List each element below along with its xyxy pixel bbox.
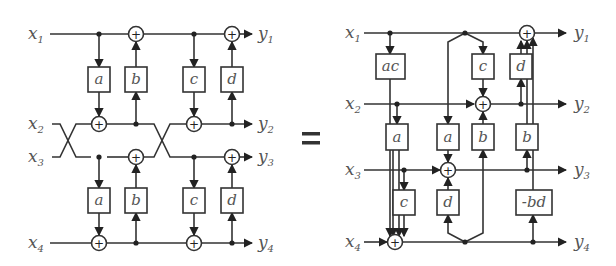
input-x2: x2	[28, 113, 44, 135]
output-y3: y3	[573, 159, 590, 181]
svg-text:c: c	[479, 57, 488, 75]
svg-text:+: +	[390, 236, 400, 250]
wire-mid-lower-b	[144, 124, 186, 157]
left-sum-nodes: + + + + + + + +	[92, 27, 240, 251]
left-lower-blocks: a b c d	[88, 188, 243, 213]
input-x4: x4	[28, 232, 44, 254]
svg-text:+: +	[227, 28, 237, 42]
svg-text:+: +	[478, 98, 488, 112]
svg-text:b: b	[522, 128, 532, 146]
svg-text:a: a	[444, 128, 453, 146]
left-upper-blocks: a b c d	[88, 67, 243, 92]
svg-text:a: a	[393, 128, 402, 146]
input-x3: x3	[345, 159, 361, 181]
svg-text:d: d	[443, 193, 453, 211]
input-x2: x2	[345, 93, 361, 115]
svg-text:+: +	[443, 164, 453, 178]
svg-text:c: c	[190, 191, 199, 209]
output-y4: y4	[257, 232, 274, 254]
svg-text:ac: ac	[382, 57, 400, 75]
svg-text:+: +	[131, 151, 141, 165]
output-y2: y2	[257, 113, 274, 135]
wire-mid-upper	[107, 124, 224, 157]
left-input-labels: x1 x2 x3 x4	[28, 23, 44, 254]
input-x1: x1	[345, 22, 361, 44]
svg-text:+: +	[94, 118, 104, 132]
svg-text:+: +	[522, 27, 532, 41]
svg-text:a: a	[95, 70, 104, 88]
lifting-structure-diagram: x1 x2 x3 x4 y1 y2 y3 y4	[0, 0, 616, 266]
svg-text:+: +	[189, 118, 199, 132]
right-input-labels: x1 x2 x3 x4	[345, 22, 361, 253]
svg-text:+: +	[189, 237, 199, 251]
right-output-labels: y1 y2 y3 y4	[573, 22, 590, 253]
equals-sign	[302, 132, 320, 145]
input-x4: x4	[345, 231, 361, 253]
left-diagram: x1 x2 x3 x4 y1 y2 y3 y4	[28, 23, 274, 254]
svg-text:c: c	[400, 193, 409, 211]
wire-x2-cross1	[52, 124, 91, 157]
output-y3: y3	[257, 146, 274, 168]
output-y1: y1	[257, 23, 274, 45]
input-x1: x1	[28, 23, 44, 45]
right-blocks: ac c d a a b b c d -bd	[376, 54, 552, 215]
svg-text:+: +	[131, 28, 141, 42]
svg-text:b: b	[478, 128, 488, 146]
svg-text:+: +	[227, 151, 237, 165]
svg-text:a: a	[95, 191, 104, 209]
svg-text:b: b	[131, 191, 141, 209]
output-y4: y4	[573, 231, 590, 253]
input-x3: x3	[28, 146, 44, 168]
svg-text:+: +	[94, 237, 104, 251]
svg-text:c: c	[190, 70, 199, 88]
svg-text:d: d	[227, 70, 237, 88]
svg-text:b: b	[131, 70, 141, 88]
svg-text:-bd: -bd	[522, 193, 546, 211]
output-y2: y2	[573, 93, 590, 115]
output-y1: y1	[573, 22, 590, 44]
left-output-labels: y1 y2 y3 y4	[257, 23, 274, 254]
svg-text:d: d	[516, 57, 526, 75]
wire-x3-cross1	[52, 124, 91, 157]
svg-text:d: d	[227, 191, 237, 209]
right-diagram: x1 x2 x3 x4 y1 y2 y3 y4	[345, 22, 590, 253]
